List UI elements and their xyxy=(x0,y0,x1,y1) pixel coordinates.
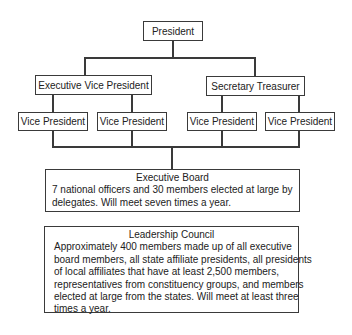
node-vice-president-2: Vice President xyxy=(97,112,167,131)
node-vice-president-3: Vice President xyxy=(187,112,257,131)
node-president-label: President xyxy=(152,26,194,37)
node-vp2-label: Vice President xyxy=(100,116,164,127)
connector-evp-to-vp2 xyxy=(131,94,133,112)
executive-board-title: Executive Board xyxy=(46,172,299,184)
connector-level2-bus xyxy=(84,57,256,59)
node-vp4-label: Vice President xyxy=(268,116,332,127)
node-executive-vice-president: Executive Vice President xyxy=(35,75,152,95)
node-vice-president-1: Vice President xyxy=(18,112,88,131)
leadership-council-text-line: of local affiliates that have at least 2… xyxy=(45,266,298,278)
node-secretary-treasurer-label: Secretary Treasurer xyxy=(211,81,299,92)
leadership-council-text-line: elected at large from the states. Will m… xyxy=(45,291,298,303)
executive-board-text-line: 7 national officers and 30 members elect… xyxy=(46,184,299,196)
leadership-council-text-line: times a year. xyxy=(45,303,298,315)
node-vp1-label: Vice President xyxy=(21,116,85,127)
node-secretary-treasurer: Secretary Treasurer xyxy=(206,76,305,96)
executive-board-text-line: delegates. Will meet seven times a year. xyxy=(46,197,299,209)
leadership-council-text-line: representatives from constituency groups… xyxy=(45,279,298,291)
node-evp-label: Executive Vice President xyxy=(38,80,148,91)
connector-evp-to-vp1 xyxy=(52,94,54,112)
org-chart: President Executive Vice President Secre… xyxy=(0,0,352,335)
connector-secretary-drop xyxy=(254,57,256,76)
connector-level3-bus xyxy=(52,146,300,148)
leadership-council-text-line: board members, all state affiliate presi… xyxy=(45,254,298,266)
node-president: President xyxy=(143,21,203,41)
node-vp3-label: Vice President xyxy=(190,116,254,127)
leadership-council-panel: Leadership Council Approximately 400 mem… xyxy=(44,226,299,313)
leadership-council-text-line: Approximately 400 members made up of all… xyxy=(45,241,298,253)
connector-st-to-vp3 xyxy=(221,95,223,112)
node-vice-president-4: Vice President xyxy=(265,112,335,131)
connector-board-drop xyxy=(171,146,173,169)
connector-evp-drop xyxy=(84,57,86,75)
executive-board-panel: Executive Board 7 national officers and … xyxy=(45,169,300,212)
leadership-council-title: Leadership Council xyxy=(45,229,298,241)
connector-president-drop xyxy=(172,41,174,58)
connector-st-to-vp4 xyxy=(298,95,300,112)
